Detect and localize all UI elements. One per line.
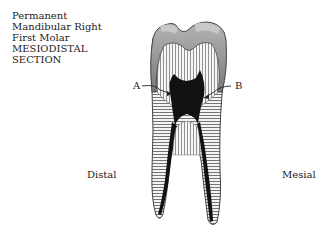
label-mesial: Mesial <box>282 169 316 180</box>
tooth-section-drawing <box>0 0 321 235</box>
label-a: A <box>133 80 140 91</box>
label-distal: Distal <box>87 169 117 180</box>
label-b: B <box>235 80 242 91</box>
diagram-stage: Permanent Mandibular Right First Molar M… <box>0 0 321 235</box>
